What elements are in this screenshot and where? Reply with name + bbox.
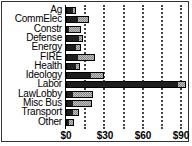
x-tick-label: $30 [97, 130, 114, 141]
x-tick-label: $0 [60, 130, 71, 141]
bar [66, 91, 93, 98]
bar [66, 72, 104, 79]
bar-segment-checkered [73, 8, 75, 13]
bar [66, 109, 79, 116]
bar-segment-checkered [78, 17, 89, 22]
bar [66, 63, 80, 70]
bar [66, 16, 89, 23]
bar-segment-checkered [69, 120, 73, 125]
bar-row: Defense [0, 34, 192, 43]
bar-segment-dark [67, 64, 76, 69]
bar-row: Other [0, 118, 192, 127]
bar-segment-checkered [91, 73, 103, 78]
bar [66, 26, 81, 33]
bar-chart: AgCommElecConstrDefenseEnergyFIREHealthI… [0, 0, 192, 146]
bar [66, 54, 95, 61]
bar-segment-checkered [76, 45, 80, 50]
bar-segment-dark [67, 73, 91, 78]
bar-segment-dark [67, 36, 79, 41]
bar [66, 35, 83, 42]
bar-row: Ideology [0, 71, 192, 80]
bar-segment-dark [67, 45, 76, 50]
bar [66, 44, 81, 51]
bar [66, 119, 74, 126]
bar-segment-checkered [78, 55, 95, 60]
bar [66, 81, 186, 88]
bar-segment-checkered [69, 27, 80, 32]
x-tick-label: $60 [135, 130, 152, 141]
category-label: Other [38, 117, 62, 127]
bar [66, 7, 76, 14]
bar-segment-checkered [73, 110, 77, 115]
bar-segment-checkered [178, 82, 186, 87]
bar-segment-dark [67, 55, 78, 60]
bar-segment-checkered [76, 64, 79, 69]
bar-segment-dark [67, 17, 78, 22]
bar-row: Energy [0, 43, 192, 52]
bar-row: FIRE [0, 53, 192, 62]
bar-row: CommElec [0, 15, 192, 24]
bar [66, 100, 92, 107]
x-tick-label: $90 [173, 130, 190, 141]
bar-row: Transport [0, 108, 192, 117]
bar-segment-checkered [79, 36, 81, 41]
bar-segment-dark [67, 82, 178, 87]
bar-segment-checkered [73, 101, 91, 106]
bar-segment-checkered [73, 92, 92, 97]
